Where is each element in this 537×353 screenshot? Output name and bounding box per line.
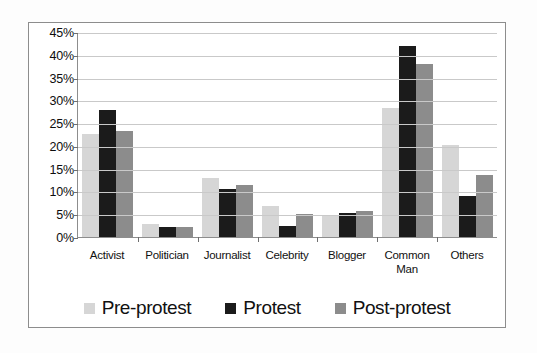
y-tick-label: 45%	[50, 26, 74, 40]
y-axis-tick	[74, 215, 78, 216]
bar-group	[317, 33, 377, 237]
y-axis-tick	[74, 192, 78, 193]
category-label-line: Man	[377, 263, 437, 277]
page-canvas: 0%5%10%15%20%25%30%35%40%45% ActivistPol…	[0, 0, 537, 353]
y-tick-label: 15%	[50, 163, 74, 177]
category-label: Others	[437, 249, 497, 291]
legend-swatch-icon	[84, 303, 95, 314]
category-label: Activist	[77, 249, 137, 291]
legend-label: Post-protest	[353, 297, 451, 319]
y-axis-tick	[74, 33, 78, 34]
category-label-line: Journalist	[197, 249, 257, 263]
y-axis-tick	[74, 101, 78, 102]
bar	[416, 64, 433, 237]
y-tick-label: 20%	[50, 140, 74, 154]
y-axis-tick	[74, 124, 78, 125]
bar-group	[258, 33, 318, 237]
bar	[202, 178, 219, 237]
y-tick-label: 35%	[50, 72, 74, 86]
y-tick-label: 10%	[50, 185, 74, 199]
legend-item-post-protest[interactable]: Post-protest	[335, 297, 451, 319]
x-axis-tick	[258, 237, 259, 242]
gridline	[78, 124, 497, 125]
y-axis-tick	[74, 147, 78, 148]
gridline	[78, 79, 497, 80]
gridline	[78, 192, 497, 193]
category-label: Celebrity	[257, 249, 317, 291]
bar-group	[377, 33, 437, 237]
gridline	[78, 33, 497, 34]
category-label-line: Politician	[137, 249, 197, 263]
y-axis-tick	[74, 170, 78, 171]
gridline	[78, 56, 497, 57]
gridline	[78, 101, 497, 102]
category-label: Blogger	[317, 249, 377, 291]
bar	[99, 110, 116, 237]
x-axis-tick	[377, 237, 378, 242]
bar	[339, 213, 356, 237]
y-tick-label: 25%	[50, 117, 74, 131]
bar	[219, 189, 236, 237]
plot-region: 0%5%10%15%20%25%30%35%40%45%	[29, 23, 505, 247]
bar	[322, 215, 339, 237]
category-label-line: Activist	[77, 249, 137, 263]
gridline	[78, 170, 497, 171]
bar	[442, 145, 459, 237]
gridline	[78, 215, 497, 216]
x-axis-tick	[198, 237, 199, 242]
bar	[142, 224, 159, 237]
y-axis-tick	[74, 79, 78, 80]
category-label-line: Common	[377, 249, 437, 263]
bar	[459, 196, 476, 237]
category-label: Journalist	[197, 249, 257, 291]
category-label: Politician	[137, 249, 197, 291]
bar	[476, 175, 493, 237]
chart-legend: Pre-protestProtestPost-protest	[29, 291, 505, 325]
category-label: CommonMan	[377, 249, 437, 291]
x-axis-tick	[317, 237, 318, 242]
y-tick-label: 40%	[50, 49, 74, 63]
bar	[382, 108, 399, 237]
bar	[399, 46, 416, 237]
bar-group	[138, 33, 198, 237]
legend-item-protest[interactable]: Protest	[225, 297, 300, 319]
x-axis-tick	[437, 237, 438, 242]
bar	[176, 227, 193, 237]
legend-swatch-icon	[225, 303, 236, 314]
bar-group	[78, 33, 138, 237]
bar-group	[437, 33, 497, 237]
bar	[262, 206, 279, 237]
bar-group	[198, 33, 258, 237]
y-axis-tick-labels: 0%5%10%15%20%25%30%35%40%45%	[29, 23, 77, 247]
category-label-line: Celebrity	[257, 249, 317, 263]
category-label-line: Others	[437, 249, 497, 263]
x-axis-category-labels: ActivistPoliticianJournalistCelebrityBlo…	[77, 249, 497, 291]
gridline	[78, 147, 497, 148]
legend-swatch-icon	[335, 303, 346, 314]
bars-layer	[78, 33, 497, 237]
plot-area	[77, 33, 497, 238]
y-axis-tick	[74, 56, 78, 57]
bar	[279, 226, 296, 237]
y-tick-label: 5%	[56, 208, 74, 222]
legend-label: Pre-protest	[102, 297, 192, 319]
x-axis-tick	[138, 237, 139, 242]
y-axis-tick	[74, 238, 78, 239]
y-tick-label: 30%	[50, 94, 74, 108]
legend-label: Protest	[243, 297, 300, 319]
bar	[82, 134, 99, 237]
bar	[159, 227, 176, 237]
y-tick-label: 0%	[56, 231, 74, 245]
legend-item-pre-protest[interactable]: Pre-protest	[84, 297, 192, 319]
chart-container: 0%5%10%15%20%25%30%35%40%45% ActivistPol…	[28, 22, 506, 328]
category-label-line: Blogger	[317, 249, 377, 263]
bar	[296, 214, 313, 237]
